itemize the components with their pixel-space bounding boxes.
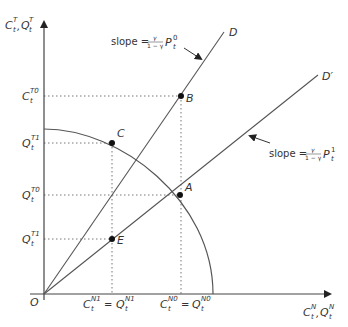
y-tick-ct0: C T0 t <box>22 87 39 105</box>
svg-text:t: t <box>29 26 32 34</box>
svg-text:N1: N1 <box>91 295 101 303</box>
slope1-annotation: slope = γ 1 − γ P 1 t <box>269 146 335 163</box>
svg-text:t: t <box>13 26 16 34</box>
ppf-diagram: B C A E D D′ O C T t , Q T t C N t , Q N… <box>0 0 348 327</box>
svg-text:Q: Q <box>320 306 329 319</box>
svg-text:t: t <box>201 305 204 313</box>
svg-text:t: t <box>125 305 128 313</box>
svg-text:T1: T1 <box>31 230 40 238</box>
svg-text:C: C <box>5 19 13 32</box>
y-tick-qt1-top: Q T1 t <box>22 134 40 152</box>
svg-text:1: 1 <box>331 146 335 154</box>
svg-text:slope =: slope = <box>269 148 307 159</box>
label-D: D <box>229 26 237 39</box>
label-B: B <box>186 92 194 105</box>
label-E: E <box>117 234 124 247</box>
origin-label: O <box>30 296 39 309</box>
svg-text:C: C <box>22 90 30 103</box>
point-C <box>109 140 115 146</box>
svg-text:γ: γ <box>311 146 315 154</box>
svg-text:P: P <box>165 36 172 49</box>
svg-text:N0: N0 <box>201 295 211 303</box>
svg-text:slope =: slope = <box>111 36 149 47</box>
x-tick-cn0: C N0 t = Q N0 t <box>160 295 211 313</box>
svg-text:,: , <box>17 21 20 32</box>
x-axis-label: C N t , Q N t <box>303 303 335 321</box>
svg-text:Q: Q <box>22 189 31 202</box>
line-D <box>44 32 224 294</box>
y-tick-qt0: Q T0 t <box>22 186 40 204</box>
svg-text:t: t <box>31 144 34 152</box>
svg-text:=: = <box>181 299 189 310</box>
svg-text:t: t <box>168 305 171 313</box>
svg-text:t: t <box>31 196 34 204</box>
svg-text:N0: N0 <box>168 295 178 303</box>
label-A: A <box>184 181 193 194</box>
svg-text:t: t <box>30 97 33 105</box>
svg-text:=: = <box>104 299 112 310</box>
svg-text:t: t <box>91 305 94 313</box>
x-tick-cn1: C N1 t = Q N1 t <box>83 295 135 313</box>
y-tick-qt1-bottom: Q T1 t <box>22 230 40 248</box>
svg-text:Q: Q <box>22 233 31 246</box>
point-E <box>109 236 115 242</box>
svg-text:t: t <box>311 313 314 321</box>
svg-text:0: 0 <box>173 34 177 42</box>
svg-text:T: T <box>29 16 34 24</box>
svg-text:Q: Q <box>116 298 125 311</box>
svg-text:,: , <box>316 308 319 319</box>
svg-text:t: t <box>31 240 34 248</box>
svg-text:1 − γ: 1 − γ <box>147 42 164 50</box>
point-B <box>178 93 184 99</box>
svg-text:t: t <box>329 313 332 321</box>
svg-text:γ: γ <box>153 34 157 42</box>
svg-text:t: t <box>173 43 176 51</box>
label-C: C <box>117 127 125 140</box>
svg-text:N1: N1 <box>125 295 135 303</box>
svg-text:Q: Q <box>22 137 31 150</box>
svg-text:C: C <box>160 298 168 311</box>
svg-text:T0: T0 <box>30 87 39 95</box>
slope1-arrow <box>250 136 270 143</box>
svg-text:P: P <box>323 148 330 161</box>
svg-text:t: t <box>331 155 334 163</box>
slope0-annotation: slope = γ 1 − γ P 0 t <box>111 34 177 51</box>
svg-text:C: C <box>303 306 311 319</box>
y-axis-label: C T t , Q T t <box>5 16 34 34</box>
slope0-arrow <box>184 48 201 59</box>
svg-text:C: C <box>83 298 91 311</box>
label-D-prime: D′ <box>322 70 333 83</box>
svg-text:N: N <box>329 303 335 311</box>
svg-text:1 − γ: 1 − γ <box>305 154 322 162</box>
svg-text:Q: Q <box>192 298 201 311</box>
svg-text:T0: T0 <box>31 186 40 194</box>
point-A <box>177 192 183 198</box>
ppf-curve <box>44 129 213 294</box>
svg-text:T1: T1 <box>31 134 40 142</box>
